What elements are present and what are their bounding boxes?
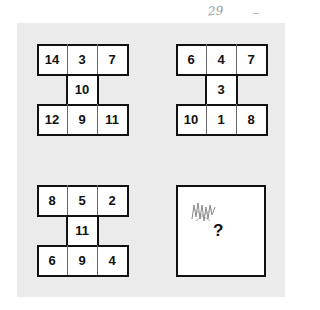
cell-top-right: 7 <box>97 44 127 74</box>
cell-bottom-left: 6 <box>37 245 67 275</box>
cell-middle: 3 <box>206 74 236 104</box>
number-grid-1: 14 3 7 10 12 9 11 <box>37 44 129 136</box>
divider <box>236 44 237 74</box>
divider <box>67 185 68 215</box>
divider <box>67 44 68 74</box>
divider <box>97 245 98 275</box>
number-grid-2: 6 4 7 3 10 1 8 <box>176 44 268 136</box>
cell-bottom-left: 12 <box>37 104 67 134</box>
cell-bottom-right: 8 <box>236 104 266 134</box>
cell-bottom-left: 10 <box>176 104 206 134</box>
divider <box>67 104 68 134</box>
cell-top-left: 14 <box>37 44 67 74</box>
number-grid-3: 8 5 2 11 6 9 4 <box>37 185 129 277</box>
divider <box>236 104 237 134</box>
divider <box>206 104 207 134</box>
cell-middle: 10 <box>67 74 97 104</box>
cell-bottom-center: 9 <box>67 104 97 134</box>
cell-top-center: 5 <box>67 185 97 215</box>
cell-bottom-right: 4 <box>97 245 127 275</box>
cell-top-right: 7 <box>236 44 266 74</box>
pencil-mark <box>253 13 259 14</box>
divider <box>206 44 207 74</box>
cell-top-center: 3 <box>67 44 97 74</box>
cell-top-left: 6 <box>176 44 206 74</box>
cell-top-left: 8 <box>37 185 67 215</box>
cell-bottom-right: 11 <box>97 104 127 134</box>
cell-top-right: 2 <box>97 185 127 215</box>
divider <box>97 185 98 215</box>
cell-top-center: 4 <box>206 44 236 74</box>
cell-bottom-center: 1 <box>206 104 236 134</box>
divider <box>67 245 68 275</box>
answer-box: ? <box>176 185 266 277</box>
cell-middle: 11 <box>67 215 97 245</box>
divider <box>97 104 98 134</box>
cell-bottom-center: 9 <box>67 245 97 275</box>
handwritten-note: 29 <box>208 3 224 18</box>
question-mark: ? <box>213 221 223 241</box>
divider <box>97 44 98 74</box>
